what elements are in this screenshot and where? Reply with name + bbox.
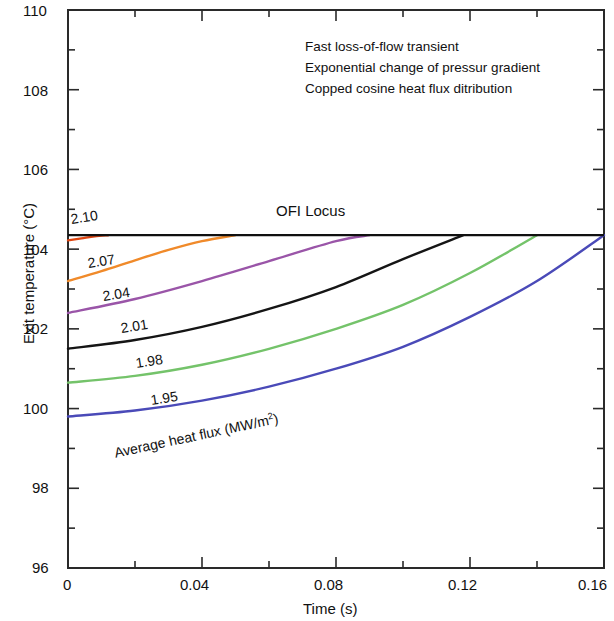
y-tick-label: 104: [23, 241, 48, 258]
annotation-line-3: Copped cosine heat flux ditribution: [305, 80, 512, 97]
curve-label-1-95-text: 1.95: [149, 388, 178, 408]
x-tick-label: 0.16: [578, 576, 607, 593]
x-tick-label: 0: [63, 576, 71, 593]
curve-label-2-07-text: 2.07: [86, 251, 115, 271]
x-axis-title: Time (s): [303, 600, 357, 617]
curve-label-1-98-text: 1.98: [134, 351, 163, 371]
curve-label-2-10-text: 2.10: [69, 207, 98, 227]
y-tick-label: 100: [23, 400, 48, 417]
annotation-line-1: Fast loss-of-flow transient: [305, 38, 459, 55]
y-tick-label: 110: [23, 2, 47, 19]
curve-label-2-01-text: 2.01: [119, 316, 148, 336]
y-tick-label: 98: [32, 479, 49, 496]
curve-label-2-04: 2.04: [104, 288, 131, 304]
curve-label-2-10: 2.10: [72, 211, 99, 227]
curve-label-2-01: 2.01: [122, 320, 149, 336]
x-tick-label: 0.04: [180, 576, 209, 593]
curve-label-1-98: 1.98: [137, 355, 164, 371]
curve-label-1-95: 1.95: [152, 392, 179, 408]
x-tick-label: 0.08: [314, 576, 343, 593]
curve-label-2-04-text: 2.04: [101, 284, 130, 304]
chart-figure: Exit temperature (°C) 110 108 106 104 10…: [0, 0, 614, 621]
y-tick-label: 106: [23, 161, 48, 178]
ofi-locus-label: OFI Locus: [276, 202, 345, 219]
y-tick-label: 102: [23, 320, 48, 337]
annotation-line-2: Exponential change of pressur gradient: [305, 59, 540, 76]
y-tick-label: 108: [23, 82, 48, 99]
y-tick-label: 96: [32, 559, 49, 576]
x-tick-label: 0.12: [448, 576, 477, 593]
average-heat-flux-legend: Average heat flux (MW/m2): [116, 444, 283, 461]
curve-label-2-07: 2.07: [89, 255, 116, 271]
